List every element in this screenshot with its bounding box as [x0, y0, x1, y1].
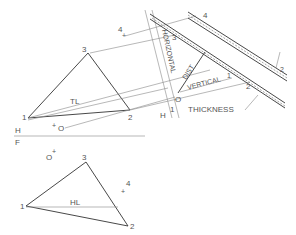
top-point-3: 3 — [82, 45, 87, 54]
vertical-label: VERTICAL — [186, 75, 221, 91]
top-point-2: 2 — [128, 113, 133, 122]
front-hl-label: HL — [70, 198, 81, 207]
front-point-4: 4 — [126, 179, 131, 188]
fold-f-label: F — [15, 138, 20, 147]
aux-point-o: O — [175, 95, 181, 104]
aux-h-label: H — [160, 111, 166, 120]
aux-point-4: 4 — [203, 11, 208, 20]
front-point-2: 2 — [130, 222, 135, 231]
thickness-label: THICKNESS — [188, 105, 234, 114]
thickness-leader — [245, 95, 258, 110]
aux-edge-1: 1 — [227, 72, 231, 79]
front-point-3: 3 — [82, 153, 87, 162]
front-view-triangle — [26, 162, 128, 226]
front-o-mark: + — [52, 148, 56, 155]
front-point-1: 1 — [20, 202, 25, 211]
fold-h-label: H — [15, 126, 21, 135]
aux-point-2: 2 — [246, 82, 251, 91]
top-o-mark: + — [52, 122, 56, 129]
aux-point-3: 3 — [172, 33, 177, 42]
top-point-1: 1 — [22, 113, 27, 122]
top-point-4-mark: + — [122, 32, 126, 39]
dist-label: DIST — [181, 63, 196, 81]
top-point-o: O — [58, 124, 64, 133]
front-point-4-mark: + — [121, 188, 125, 195]
descriptive-geometry-drawing: 1 2 3 4 + TL + O H F H 1 HORIZONTAL 4 3 … — [0, 0, 296, 235]
edge-view-plane-2 — [188, 12, 287, 81]
aux-edge-2: 2 — [280, 66, 284, 73]
top-tl-label: TL — [70, 97, 80, 106]
aux-1-label: 1 — [170, 105, 175, 114]
